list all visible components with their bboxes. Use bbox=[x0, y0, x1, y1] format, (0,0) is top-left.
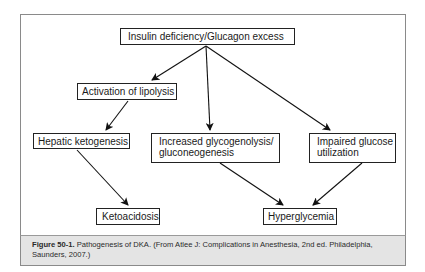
node-ketoacidosis: Ketoacidosis bbox=[96, 208, 160, 225]
edge-impaired-hyperglycemia bbox=[313, 163, 362, 205]
caption-text: Pathogenesis of DKA. (From Atlee J: Comp… bbox=[32, 240, 373, 259]
node-label-line1: Increased glycogenolysis/ bbox=[159, 136, 276, 147]
edge-root-lipolysis bbox=[152, 46, 206, 80]
edge-root-impaired bbox=[206, 46, 330, 130]
node-label: Ketoacidosis bbox=[102, 211, 159, 222]
edge-root-glycogenolysis bbox=[206, 46, 210, 130]
node-hyperglycemia: Hyperglycemia bbox=[263, 208, 337, 225]
node-label: Insulin deficiency/Glucagon excess bbox=[128, 31, 284, 42]
node-impaired-glucose-utilization: Impaired glucose utilization bbox=[309, 133, 396, 163]
node-hepatic-ketogenesis: Hepatic ketogenesis bbox=[33, 133, 130, 149]
node-label-line2: gluconeogenesis bbox=[159, 147, 276, 158]
node-label: Hyperglycemia bbox=[268, 211, 334, 222]
edge-ketogenesis-ketoacidosis bbox=[77, 150, 128, 205]
node-increased-glycogenolysis: Increased glycogenolysis/ gluconeogenesi… bbox=[151, 133, 280, 163]
node-label: Activation of lipolysis bbox=[82, 86, 174, 97]
figure-caption: Figure 50-1. Pathogenesis of DKA. (From … bbox=[20, 235, 406, 266]
node-label-line1: Impaired glucose bbox=[317, 136, 392, 147]
node-label-line2: utilization bbox=[317, 147, 392, 158]
caption-label: Figure 50-1. bbox=[32, 240, 75, 249]
node-activation-of-lipolysis: Activation of lipolysis bbox=[77, 83, 177, 100]
edge-glycogenolysis-hyperglycemia bbox=[220, 163, 283, 205]
node-label: Hepatic ketogenesis bbox=[38, 136, 128, 147]
edge-lipolysis-ketogenesis bbox=[106, 101, 128, 130]
node-insulin-deficiency: Insulin deficiency/Glucagon excess bbox=[120, 28, 295, 45]
